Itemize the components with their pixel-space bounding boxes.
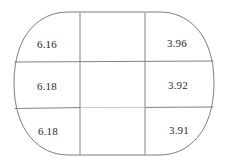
- cell-value-middle-right: 3.92: [168, 80, 188, 91]
- diagram-svg: [0, 0, 228, 167]
- horizontal-divider-top: [15, 61, 214, 62]
- cell-value-bottom-right: 3.91: [169, 125, 189, 136]
- cell-value-bottom-left: 6.18: [38, 126, 58, 137]
- cell-value-top-left: 6.16: [37, 39, 57, 50]
- cell-value-top-right: 3.96: [167, 38, 187, 49]
- cell-value-middle-left: 6.18: [37, 81, 57, 92]
- measurement-grid-diagram: 6.16 3.96 6.18 3.92 6.18 3.91: [0, 0, 228, 167]
- horizontal-divider-bottom-left: [15, 108, 81, 109]
